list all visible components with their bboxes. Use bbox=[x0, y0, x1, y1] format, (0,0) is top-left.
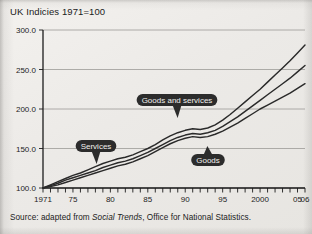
ytick-label: 250.0 bbox=[16, 66, 37, 75]
xtick-label: 06 bbox=[301, 195, 310, 204]
ytick-label: 300.0 bbox=[16, 26, 37, 35]
source-publication: Social Trends bbox=[92, 213, 142, 222]
source-suffix: , Office for National Statistics. bbox=[142, 213, 251, 222]
xtick-label: 85 bbox=[143, 195, 152, 204]
annotation-services: Services bbox=[76, 140, 117, 164]
chart-figure: UK Indicies 1971=100 100.0150.0200.0250.… bbox=[0, 0, 312, 234]
source-prefix: Source: adapted from bbox=[10, 213, 92, 222]
annotation-pointer bbox=[92, 151, 101, 164]
xtick-label: 80 bbox=[106, 195, 115, 204]
ytick-label: 100.0 bbox=[16, 184, 37, 193]
annotation-label: Goods and services bbox=[142, 96, 213, 105]
ytick-label: 150.0 bbox=[16, 145, 37, 154]
annotation-pointer bbox=[173, 105, 182, 118]
xtick-label: 95 bbox=[218, 195, 227, 204]
xtick-label: 1971 bbox=[34, 195, 52, 204]
source-note: Source: adapted from Social Trends, Offi… bbox=[10, 213, 251, 222]
annotation-pointer bbox=[204, 146, 213, 155]
xtick-label: 90 bbox=[181, 195, 190, 204]
annotation-label: Services bbox=[81, 142, 112, 151]
xtick-label: 75 bbox=[68, 195, 77, 204]
annotation-goods-and-services: Goods and services bbox=[137, 94, 218, 118]
line-chart-plot: 100.0150.0200.0250.0300.0197175808590952… bbox=[0, 0, 312, 234]
xtick-label: 2000 bbox=[251, 195, 269, 204]
annotation-label: Goods bbox=[196, 156, 220, 165]
ytick-label: 200.0 bbox=[16, 105, 37, 114]
series-line-services bbox=[43, 45, 305, 188]
annotation-goods: Goods bbox=[191, 146, 225, 166]
